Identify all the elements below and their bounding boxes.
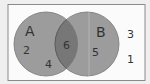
intersection-value: 6 [63, 39, 70, 52]
set-b-only-value: 5 [92, 46, 99, 59]
outside-value-1: 3 [127, 28, 134, 41]
set-b-label: B [96, 24, 106, 40]
set-a-only-value-2: 4 [45, 58, 52, 71]
venn-diagram: A 2 4 6 B 5 3 1 [0, 0, 150, 84]
outside-value-2: 1 [127, 53, 134, 66]
set-a-only-value: 2 [23, 44, 30, 57]
set-a-label: A [25, 23, 35, 39]
